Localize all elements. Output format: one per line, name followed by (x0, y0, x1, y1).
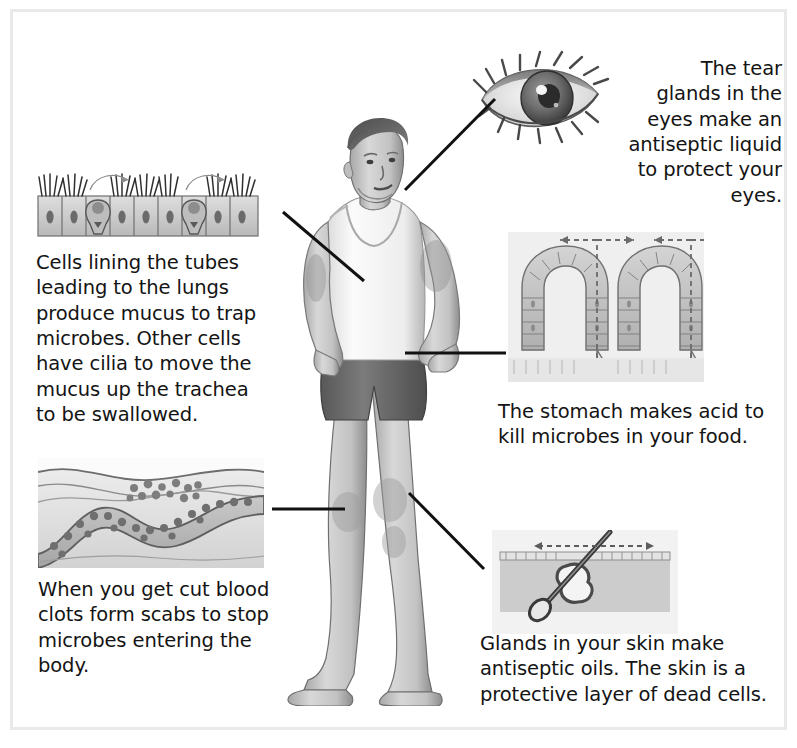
ciliated-epithelium-illustration (32, 160, 264, 242)
stomach-lining-illustration (508, 232, 704, 382)
hair-follicle-illustration (492, 530, 678, 634)
callout-text-cilia-mucus: Cells lining the tubes leading to the lu… (36, 250, 296, 427)
callout-text-stomach-acid: The stomach makes acid to kill microbes … (498, 399, 788, 450)
callout-text-tear-glands: The tear glands in the eyes make an anti… (586, 56, 782, 208)
boy-standing-figure (286, 118, 482, 706)
blood-clot-illustration (38, 458, 264, 568)
diagram-page: The tear glands in the eyes make an anti… (0, 0, 797, 748)
callout-text-skin-glands: Glands in your skin make antiseptic oils… (480, 631, 792, 707)
callout-text-blood-clot: When you get cut blood clots form scabs … (38, 577, 300, 678)
